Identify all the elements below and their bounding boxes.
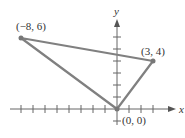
vertex-point: [19, 36, 24, 41]
point-label: (−8, 6): [16, 20, 46, 33]
coordinate-plane: x y (−8, 6) (3, 4) (0, 0): [0, 0, 185, 138]
point-label: (0, 0): [122, 114, 146, 127]
y-axis-label: y: [113, 5, 119, 17]
x-axis-label: x: [178, 103, 184, 115]
triangle: [21, 38, 153, 109]
vertex-point: [115, 107, 120, 112]
vertex-point: [151, 59, 156, 64]
x-axis: [10, 105, 176, 113]
point-label: (3, 4): [141, 45, 165, 58]
